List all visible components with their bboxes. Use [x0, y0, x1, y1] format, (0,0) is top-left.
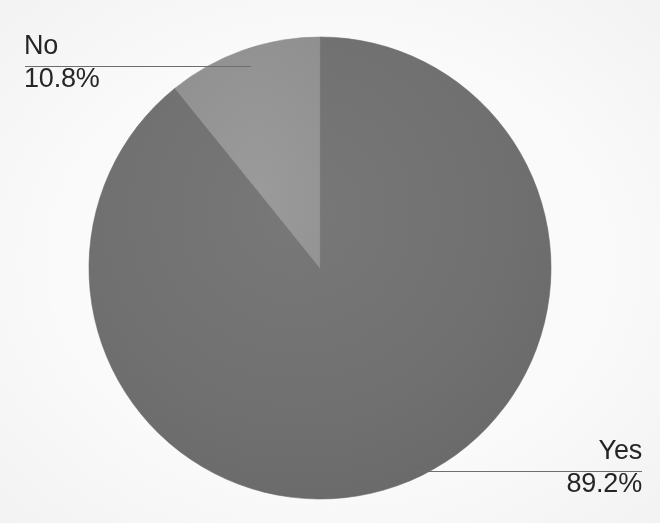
slice-label-yes-percent: 89.2%	[566, 467, 642, 500]
slice-label-yes: Yes 89.2%	[566, 434, 642, 500]
slice-label-no-name: No	[24, 29, 100, 62]
slice-label-no: No 10.8%	[24, 29, 100, 95]
pie-chart-figure: No 10.8% Yes 89.2%	[0, 0, 660, 523]
slice-label-no-percent: 10.8%	[24, 62, 100, 95]
slice-label-yes-name: Yes	[566, 434, 642, 467]
